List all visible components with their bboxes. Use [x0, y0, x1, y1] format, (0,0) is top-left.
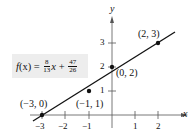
- y-tick-label: 2: [100, 61, 105, 71]
- point-label: (−1, 1): [76, 98, 103, 109]
- y-tick-label: 3: [100, 37, 105, 47]
- x-tick-label: 2: [156, 121, 161, 131]
- y-axis-label: y: [110, 3, 114, 14]
- x-tick-label: −1: [82, 121, 92, 131]
- plot-area: [0, 0, 195, 138]
- point-0-2: [110, 65, 114, 69]
- point-neg1-1: [87, 89, 91, 93]
- x-axis-label: x: [183, 108, 187, 119]
- point-2-3: [156, 41, 160, 45]
- point-label: (0, 2): [116, 67, 138, 78]
- x-tick-label: −2: [58, 121, 68, 131]
- y-axis-arrow-icon: [110, 16, 114, 23]
- point-label: (2, 3): [138, 28, 160, 39]
- point-label: (−3, 0): [20, 98, 47, 109]
- x-tick-label: −3: [35, 121, 45, 131]
- x-tick-label: 1: [133, 121, 138, 131]
- y-tick-label: 1: [100, 85, 105, 95]
- point-neg3-0: [40, 113, 44, 117]
